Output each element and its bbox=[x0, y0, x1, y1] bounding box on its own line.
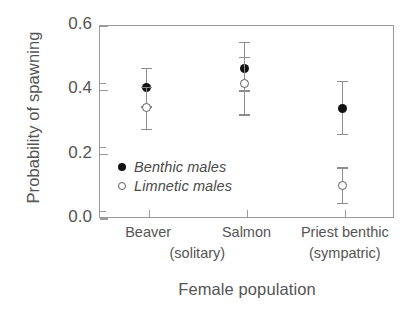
y-tick-label: 0.6 bbox=[32, 14, 92, 34]
x-sublabel-solitary: (solitary) bbox=[170, 245, 226, 261]
data-point-limnetic bbox=[240, 79, 249, 88]
legend-label-benthic: Benthic males bbox=[134, 159, 226, 175]
y-tick-label: 0.0 bbox=[32, 207, 92, 227]
error-bar-cap bbox=[239, 57, 250, 58]
y-axis-title: Probability of spawning bbox=[24, 13, 43, 223]
chart-figure: Probability of spawning 0.00.20.40.6Beav… bbox=[0, 0, 417, 315]
y-tick-minor bbox=[100, 83, 106, 84]
x-tick-label: Salmon bbox=[222, 224, 271, 240]
x-tick-label: Priest benthic bbox=[301, 224, 389, 240]
x-tick bbox=[247, 210, 248, 217]
error-bar-cap bbox=[337, 203, 348, 204]
y-tick-major bbox=[100, 154, 108, 155]
error-bar-cap bbox=[239, 114, 250, 115]
x-tick bbox=[149, 210, 150, 217]
y-tick-major bbox=[100, 25, 108, 26]
open-circle-icon bbox=[112, 176, 134, 195]
error-bar-cap bbox=[141, 87, 152, 88]
y-tick-major bbox=[100, 90, 108, 91]
error-bar-cap bbox=[337, 81, 348, 82]
error-bar-cap bbox=[239, 42, 250, 43]
x-axis-title: Female population bbox=[99, 280, 395, 299]
x-tick bbox=[345, 210, 346, 217]
error-bar-cap bbox=[141, 129, 152, 130]
legend-item-benthic: Benthic males bbox=[112, 157, 232, 176]
y-tick-label: 0.4 bbox=[32, 78, 92, 98]
error-bar-cap bbox=[337, 134, 348, 135]
x-tick-label: Beaver bbox=[125, 224, 171, 240]
error-bar-cap bbox=[141, 68, 152, 69]
legend-label-limnetic: Limnetic males bbox=[134, 178, 232, 194]
x-sublabel-sympatric: (sympatric) bbox=[309, 245, 381, 261]
y-tick-minor bbox=[100, 147, 106, 148]
y-tick-minor bbox=[100, 211, 106, 212]
data-point-limnetic bbox=[142, 103, 151, 112]
error-bar-cap bbox=[337, 167, 348, 168]
filled-circle-icon bbox=[112, 157, 134, 176]
y-tick-major bbox=[100, 218, 108, 219]
legend-item-limnetic: Limnetic males bbox=[112, 176, 232, 195]
chart-legend: Benthic males Limnetic males bbox=[112, 157, 232, 195]
y-tick-label: 0.2 bbox=[32, 143, 92, 163]
